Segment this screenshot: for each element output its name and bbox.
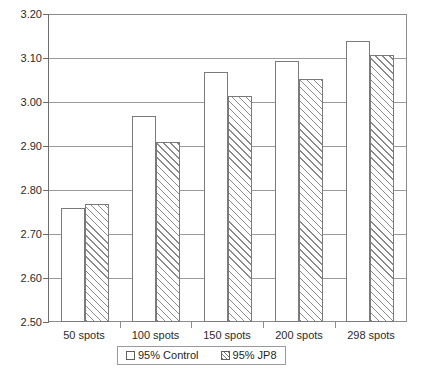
bars-layer bbox=[49, 15, 406, 322]
y-axis-tick-label: 2.90 bbox=[2, 141, 42, 152]
bar-control bbox=[132, 116, 156, 322]
bar-control bbox=[204, 72, 228, 322]
y-axis-tick-label: 2.60 bbox=[2, 273, 42, 284]
x-axis-tick-label: 150 spots bbox=[191, 329, 263, 341]
bar-chart: 3.20 3.10 3.00 2.90 2.80 2.70 2.60 2.50 … bbox=[0, 0, 424, 374]
bar-jp8 bbox=[370, 55, 394, 323]
bar-jp8 bbox=[228, 96, 252, 322]
bar-control bbox=[346, 41, 370, 322]
y-axis-tick-label: 2.70 bbox=[2, 229, 42, 240]
x-axis-tick-label: 50 spots bbox=[48, 329, 120, 341]
legend-entry-control: 95% Control bbox=[126, 350, 199, 361]
bar-control bbox=[275, 61, 299, 322]
y-axis-tick-label: 2.80 bbox=[2, 185, 42, 196]
legend-swatch-control-icon bbox=[126, 351, 135, 360]
legend-swatch-jp8-icon bbox=[221, 351, 230, 360]
bar-jp8 bbox=[85, 204, 109, 322]
x-axis-tick-label: 298 spots bbox=[335, 329, 407, 341]
chart-legend: 95% Control 95% JP8 bbox=[117, 346, 286, 365]
x-tick-mark bbox=[335, 322, 336, 328]
y-axis-tick-label: 3.10 bbox=[2, 53, 42, 64]
x-axis-tick-label: 100 spots bbox=[120, 329, 191, 341]
x-tick-mark bbox=[263, 322, 264, 328]
legend-entry-jp8: 95% JP8 bbox=[221, 350, 277, 361]
y-tick-mark bbox=[43, 322, 49, 323]
bar-control bbox=[61, 208, 85, 322]
bar-jp8 bbox=[299, 79, 323, 322]
x-tick-mark bbox=[191, 322, 192, 328]
y-axis-tick-label: 3.00 bbox=[2, 97, 42, 108]
legend-label-jp8: 95% JP8 bbox=[233, 350, 277, 361]
bar-jp8 bbox=[156, 142, 180, 322]
legend-label-control: 95% Control bbox=[138, 350, 199, 361]
y-axis-tick-label: 3.20 bbox=[2, 9, 42, 20]
y-axis-tick-label: 2.50 bbox=[2, 317, 42, 328]
x-axis-tick-label: 200 spots bbox=[263, 329, 335, 341]
x-tick-mark bbox=[120, 322, 121, 328]
